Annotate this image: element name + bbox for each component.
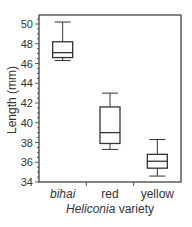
y-tick-label: 40 <box>21 117 33 129</box>
x-axis-label-italic: Heliconia <box>66 202 116 216</box>
y-tick-label: 46 <box>21 58 33 70</box>
y-tick-label: 44 <box>21 77 33 89</box>
y-tick-label: 50 <box>21 18 33 30</box>
box-series <box>53 22 168 176</box>
x-tick-label-yellow: yellow <box>141 187 175 201</box>
y-axis: 343638404244464850 <box>21 18 39 188</box>
box-red <box>100 93 120 149</box>
y-tick-label: 48 <box>21 38 33 50</box>
boxplot-chart: 343638404244464850 bihairedyellow Length… <box>0 0 192 227</box>
y-tick-label: 36 <box>21 156 33 168</box>
iqr-box <box>100 107 120 144</box>
iqr-box <box>53 42 73 58</box>
box-bihai <box>53 22 73 61</box>
x-axis: bihairedyellow <box>50 182 174 201</box>
y-tick-label: 38 <box>21 137 33 149</box>
y-tick-label: 34 <box>21 176 33 188</box>
x-axis-label: Heliconia variety <box>66 202 154 216</box>
y-tick-label: 42 <box>21 97 33 109</box>
x-tick-label-bihai: bihai <box>50 187 76 201</box>
x-tick-label-red: red <box>101 187 118 201</box>
x-axis-label-rest: variety <box>115 202 154 216</box>
y-axis-label: Length (mm) <box>5 66 19 134</box>
box-yellow <box>147 140 167 177</box>
